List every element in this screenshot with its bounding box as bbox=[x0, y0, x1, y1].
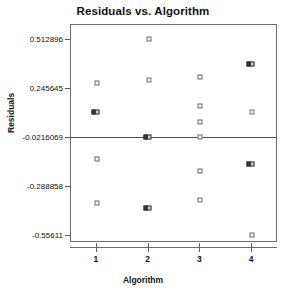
data-point-marker bbox=[146, 37, 151, 42]
data-point-marker bbox=[250, 162, 255, 167]
x-tick-label: 3 bbox=[197, 254, 202, 264]
data-point-marker bbox=[146, 135, 151, 140]
x-tick-mark-lower bbox=[148, 248, 149, 252]
data-point-marker bbox=[198, 168, 203, 173]
data-point-marker bbox=[94, 109, 99, 114]
data-point-marker bbox=[198, 75, 203, 80]
plot-area: 0.5128960.245645-0.0216069-0.288858-0.55… bbox=[70, 24, 277, 242]
residuals-scatter-chart: Residuals vs. Algorithm Residuals 0.5128… bbox=[0, 0, 286, 298]
chart-title: Residuals vs. Algorithm bbox=[0, 5, 286, 17]
data-point-marker bbox=[198, 198, 203, 203]
data-point-marker bbox=[198, 119, 203, 124]
x-tick-mark-lower bbox=[199, 248, 200, 252]
data-point-marker bbox=[250, 109, 255, 114]
y-tick-mark bbox=[65, 186, 71, 187]
data-point-marker bbox=[146, 77, 151, 82]
y-axis-title: Residuals bbox=[6, 93, 16, 133]
y-tick-label: 0.512896 bbox=[30, 35, 63, 44]
x-axis: 1234 bbox=[70, 247, 277, 248]
y-tick-mark bbox=[65, 235, 71, 236]
y-tick-label: 0.245645 bbox=[30, 84, 63, 93]
data-point-marker bbox=[250, 61, 255, 66]
y-tick-label: -0.0216069 bbox=[23, 133, 63, 142]
data-point-marker bbox=[94, 157, 99, 162]
data-point-marker bbox=[198, 103, 203, 108]
y-tick-mark bbox=[65, 88, 71, 89]
data-point-marker bbox=[146, 205, 151, 210]
y-tick-label: -0.288858 bbox=[27, 182, 63, 191]
x-tick-label: 2 bbox=[145, 254, 150, 264]
x-tick-mark-lower bbox=[251, 248, 252, 252]
x-tick-label: 4 bbox=[249, 254, 254, 264]
zero-reference-line bbox=[71, 137, 276, 138]
data-point-marker bbox=[250, 232, 255, 237]
y-tick-label: -0.55611 bbox=[32, 230, 63, 239]
x-tick-label: 1 bbox=[94, 254, 99, 264]
y-tick-mark bbox=[65, 39, 71, 40]
data-point-marker bbox=[198, 135, 203, 140]
x-tick-mark-lower bbox=[96, 248, 97, 252]
data-point-marker bbox=[94, 200, 99, 205]
data-point-marker bbox=[94, 81, 99, 86]
x-axis-title: Algorithm bbox=[0, 275, 286, 285]
